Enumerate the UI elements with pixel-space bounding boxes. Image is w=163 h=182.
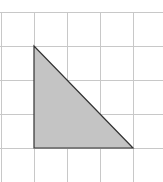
grid-diagram: [0, 0, 163, 182]
right-triangle: [34, 46, 133, 148]
